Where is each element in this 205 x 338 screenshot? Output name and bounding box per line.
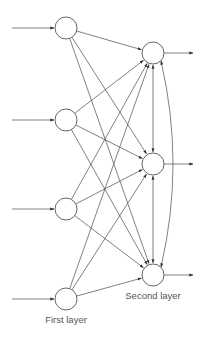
first-layer-node-4 [55,288,77,310]
connection-f4-s2 [72,174,147,290]
connection-f3-s1 [71,63,147,199]
second-layer-node-3 [142,264,164,286]
connection-f3-s3 [75,216,144,268]
first-layer-node-2 [55,109,77,131]
neural-network-diagram: First layer Second layer [0,0,205,338]
neurons [55,17,164,310]
first-layer-label: First layer [45,314,87,325]
connection-f3-s2 [76,170,143,204]
connection-f4-s1 [70,64,149,288]
connections [12,28,193,299]
second-layer-node-1 [142,42,164,64]
second-layer-label: Second layer [125,290,180,301]
connection-f2-s1 [75,60,144,113]
first-layer-node-1 [55,17,77,39]
connection-f1-s3 [70,38,149,263]
second-layer-node-2 [142,153,164,175]
first-layer-node-3 [55,198,77,220]
connection-f1-s2 [72,37,147,154]
connection-f2-s2 [76,125,142,159]
connection-f1-s1 [77,31,142,50]
